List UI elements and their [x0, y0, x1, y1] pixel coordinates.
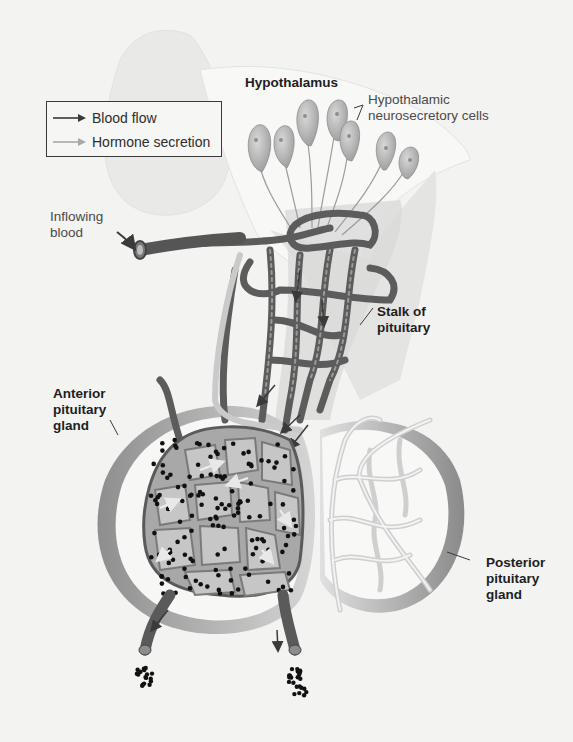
anterior-cell-cluster: [144, 427, 303, 596]
hormone-dot: [232, 513, 237, 518]
secreted-hormone-dot: [147, 683, 151, 687]
hormone-dot: [272, 465, 277, 470]
legend: Blood flow Hormone secretion: [46, 101, 222, 157]
hormone-dot: [189, 528, 194, 533]
hormone-dot: [184, 575, 189, 580]
hormone-dot: [266, 580, 271, 585]
secreted-hormone-dot: [150, 671, 154, 675]
hormone-dot: [247, 515, 252, 520]
hormone-dot: [236, 506, 241, 511]
legend-item-hormone-secretion: Hormone secretion: [53, 133, 210, 151]
label-hypothalamus: Hypothalamus: [245, 75, 338, 91]
hormone-dot: [200, 474, 205, 479]
legend-label-blood-flow: Blood flow: [92, 110, 157, 126]
secreted-hormone-dot: [135, 672, 139, 676]
hormone-dot: [260, 559, 265, 564]
hormone-dot: [282, 526, 287, 531]
hormone-dot: [149, 555, 154, 560]
hormone-dot: [236, 587, 241, 592]
hormone-dot: [227, 503, 232, 508]
hormone-dot: [215, 552, 220, 557]
hormone-dot: [198, 490, 203, 495]
hormone-dot: [160, 448, 165, 453]
hormone-dot: [187, 474, 192, 479]
hormone-dot: [188, 586, 193, 591]
secreted-hormone-dot: [299, 686, 303, 690]
hormone-dot: [215, 506, 220, 511]
inflowing-artery: [134, 238, 240, 259]
secreted-hormone-dot: [140, 684, 144, 688]
hormone-dot: [287, 571, 292, 576]
hormone-dot: [182, 535, 187, 540]
hormone-dot: [294, 524, 299, 529]
hormone-dot: [161, 470, 166, 475]
hormone-dot: [241, 451, 246, 456]
hormone-dot: [230, 591, 235, 596]
hormone-dot: [206, 443, 211, 448]
hormone-dot: [292, 532, 297, 537]
hormone-dot: [246, 450, 251, 455]
hormone-dot: [196, 462, 201, 467]
hormone-dot: [189, 492, 194, 497]
hormone-dot: [236, 510, 241, 515]
light-arrow-icon: [53, 137, 87, 147]
hormone-dot: [281, 502, 286, 507]
hormone-dot: [188, 557, 193, 562]
hormone-dot: [214, 496, 219, 501]
hormone-dot: [231, 441, 236, 446]
secreted-hormone-dot: [142, 668, 146, 672]
hormone-dot: [283, 454, 288, 459]
hormone-dot: [183, 552, 188, 557]
hormone-dot: [213, 515, 218, 520]
secreted-hormone-dot: [291, 681, 295, 685]
hormone-dot: [197, 442, 202, 447]
hormone-dot: [221, 525, 226, 530]
secreted-hormone-dot: [290, 667, 294, 671]
hormone-dot: [168, 472, 173, 477]
hormone-dot: [249, 481, 254, 486]
hormone-dot: [218, 591, 223, 596]
hormone-dot: [250, 538, 255, 543]
hormone-dot: [247, 573, 252, 578]
hormone-dot: [246, 498, 251, 503]
hormone-dot: [216, 524, 221, 529]
secreted-hormone-dot: [149, 677, 153, 681]
hormone-dot: [254, 546, 259, 551]
hormone-dot: [171, 558, 176, 563]
hormone-dot: [208, 472, 213, 477]
hormone-dot: [238, 499, 243, 504]
secreted-hormone-dot: [145, 672, 149, 676]
hormone-dot: [274, 460, 279, 465]
label-stalk-of-pituitary: Stalk of pituitary: [377, 304, 430, 336]
hormone-dot: [176, 485, 181, 490]
hormone-dot: [249, 464, 254, 469]
hormone-dot: [208, 455, 213, 460]
hormone-dot: [222, 547, 227, 552]
hormone-dot: [259, 458, 264, 463]
hormone-dot: [228, 567, 233, 572]
secreted-hormone-dot: [297, 691, 301, 695]
hormone-dot: [266, 459, 271, 464]
secreted-hormone-dot: [295, 685, 299, 689]
hormone-dot: [258, 514, 263, 519]
label-inflowing-blood: Inflowing blood: [50, 209, 103, 241]
hormone-dot: [229, 578, 234, 583]
hormone-dot: [151, 462, 156, 467]
label-neurosecretory-cells: Hypothalamic neurosecretory cells: [368, 92, 489, 124]
hormone-dot: [211, 523, 216, 528]
hormone-dot: [172, 438, 177, 443]
hormone-dot: [205, 584, 210, 589]
hormone-dot: [182, 484, 187, 489]
hormone-dot: [260, 537, 265, 542]
hormone-dot: [282, 479, 287, 484]
hormone-dot: [166, 577, 171, 582]
hormone-dot: [255, 537, 260, 542]
secreted-hormone-dot: [298, 677, 302, 681]
secreted-hormone-dot: [288, 674, 292, 678]
hormone-dot: [182, 566, 187, 571]
hormone-dot: [219, 502, 224, 507]
hormone-dot: [223, 507, 228, 512]
hormone-dot: [208, 517, 213, 522]
hormone-dot: [194, 578, 199, 583]
hormone-dot: [159, 574, 164, 579]
